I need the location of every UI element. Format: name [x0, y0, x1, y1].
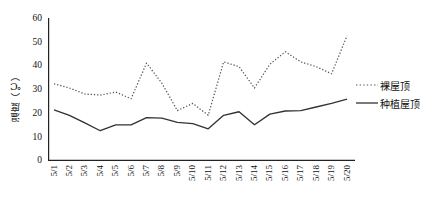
x-axis-tick-label: 5/3 [80, 165, 89, 177]
x-axis-tick-label: 5/4 [96, 165, 105, 177]
y-axis-title-text: 温度（℃） [12, 71, 22, 122]
y-axis-tick-labels: 0102030405060 [24, 0, 46, 204]
x-axis-tick-label: 5/20 [343, 165, 352, 181]
y-axis-tick-label: 40 [24, 60, 46, 70]
x-axis-tick-label: 5/12 [219, 165, 228, 181]
data-series-group [54, 36, 347, 131]
x-axis-tick-label: 5/6 [127, 165, 136, 177]
x-axis-tick-label: 5/9 [173, 165, 182, 177]
chart-legend: 裸屋顶 种植屋顶 [356, 76, 433, 112]
x-axis-tick-label: 5/18 [312, 165, 321, 181]
legend-item-bare-roof: 裸屋顶 [356, 76, 433, 94]
legend-label-planted-roof: 种植屋顶 [380, 96, 420, 111]
y-axis-tick-label: 60 [24, 13, 46, 23]
x-axis-tick-label: 5/7 [142, 165, 151, 177]
x-axis-tick-label: 5/10 [188, 165, 197, 181]
x-axis-tick-label: 5/11 [204, 165, 213, 181]
series-line-bare-roof [54, 36, 347, 116]
x-axis-tick-label: 5/19 [327, 165, 336, 181]
plot-canvas [48, 18, 355, 161]
legend-label-bare-roof: 裸屋顶 [380, 78, 410, 93]
y-axis-tick-label: 0 [24, 155, 46, 165]
y-axis-tick-label: 20 [24, 108, 46, 118]
y-axis-tick-label: 50 [24, 37, 46, 47]
y-axis-tick-label: 10 [24, 132, 46, 142]
y-axis-tick-label: 30 [24, 84, 46, 94]
x-axis-tick-label: 5/5 [111, 165, 120, 177]
x-axis-tick-label: 5/16 [281, 165, 290, 181]
chart-figure: 温度（℃） 0102030405060 5/15/25/35/45/55/65/… [0, 0, 433, 204]
x-axis-tick-label: 5/15 [265, 165, 274, 181]
solid-line-marker [356, 98, 378, 108]
x-axis-tick-label: 5/2 [65, 165, 74, 177]
x-axis-tick-label: 5/14 [250, 165, 259, 181]
x-axis-tick-label: 5/13 [235, 165, 244, 181]
plot-area [48, 18, 355, 161]
x-axis-tick-label: 5/1 [50, 165, 59, 177]
legend-item-planted-roof: 种植屋顶 [356, 94, 433, 112]
dotted-line-marker [356, 80, 378, 90]
x-axis-tick-labels: 5/15/25/35/45/55/65/75/85/95/105/115/125… [48, 163, 355, 204]
series-line-planted-roof [54, 99, 347, 131]
x-axis-tick-label: 5/17 [296, 165, 305, 181]
x-axis-tick-label: 5/8 [157, 165, 166, 177]
